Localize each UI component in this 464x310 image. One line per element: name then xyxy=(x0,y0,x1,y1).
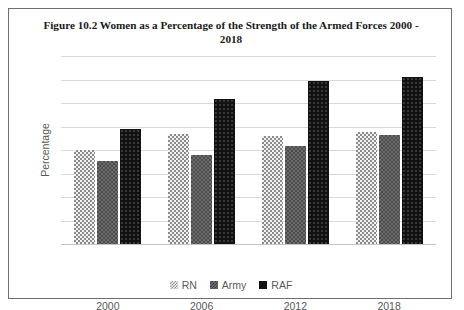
legend-item-raf[interactable]: RAF xyxy=(259,279,292,291)
bar-army-2018 xyxy=(379,135,400,244)
bar-group xyxy=(155,56,249,244)
plot-area: Percentage 0246810121416 200020062012201… xyxy=(61,56,436,244)
legend-swatch-army-icon xyxy=(210,281,218,289)
bar-rn-2012 xyxy=(262,136,283,244)
bar-raf-2000 xyxy=(120,129,141,244)
gridline xyxy=(61,244,436,245)
x-tick-label: 2006 xyxy=(157,300,247,310)
bar-group xyxy=(249,56,343,244)
bar-raf-2012 xyxy=(308,81,329,244)
bar-raf-2006 xyxy=(214,99,235,244)
legend-label: RAF xyxy=(271,279,292,291)
legend-label: RN xyxy=(182,279,197,291)
x-tick-label: 2018 xyxy=(344,300,434,310)
x-tick-label: 2000 xyxy=(63,300,153,310)
bar-army-2012 xyxy=(285,146,306,244)
legend: RNArmyRAF xyxy=(9,279,453,291)
bar-group xyxy=(61,56,155,244)
legend-swatch-rn-icon xyxy=(170,281,178,289)
bar-rn-2000 xyxy=(74,150,95,244)
bar-raf-2018 xyxy=(402,77,423,244)
bar-group xyxy=(342,56,436,244)
bar-rn-2018 xyxy=(356,132,377,244)
chart-title: Figure 10.2 Women as a Percentage of the… xyxy=(39,18,423,46)
legend-label: Army xyxy=(222,279,247,291)
legend-item-rn[interactable]: RN xyxy=(170,279,197,291)
bar-army-2006 xyxy=(191,155,212,244)
x-tick-label: 2012 xyxy=(250,300,340,310)
y-axis-label: Percentage xyxy=(39,123,51,177)
legend-item-army[interactable]: Army xyxy=(210,279,247,291)
figure-container: Figure 10.2 Women as a Percentage of the… xyxy=(8,8,452,299)
legend-swatch-raf-icon xyxy=(259,281,267,289)
bar-rn-2006 xyxy=(168,134,189,244)
bar-army-2000 xyxy=(97,161,118,244)
